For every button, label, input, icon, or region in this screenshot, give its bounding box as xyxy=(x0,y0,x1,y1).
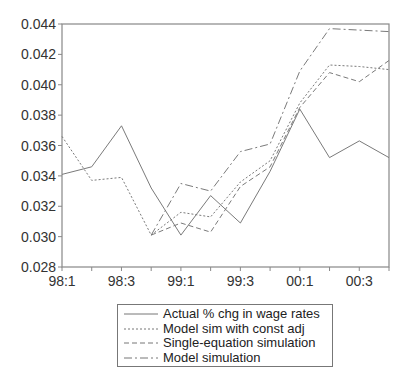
x-tick-label: 98:1 xyxy=(48,273,75,289)
y-axis-ticks: 0.0280.0300.0320.0340.0360.0380.0400.042… xyxy=(21,16,62,275)
x-tick-label: 00:3 xyxy=(346,273,373,289)
x-tick-label: 99:1 xyxy=(167,273,194,289)
dashdot-line-swatch-icon xyxy=(124,353,158,363)
series-line xyxy=(151,61,389,236)
x-tick-label: 99:3 xyxy=(227,273,254,289)
y-tick-label: 0.040 xyxy=(21,77,56,93)
solid-line-swatch-icon xyxy=(124,309,158,319)
dashed-line-swatch-icon xyxy=(124,338,158,348)
y-tick-label: 0.042 xyxy=(21,46,56,62)
series-line xyxy=(151,29,389,236)
legend-item-actual: Actual % chg in wage rates xyxy=(124,307,326,322)
series-lines xyxy=(62,29,389,236)
line-chart: 0.0280.0300.0320.0340.0360.0380.0400.042… xyxy=(0,0,403,300)
y-tick-label: 0.038 xyxy=(21,107,56,123)
y-tick-label: 0.036 xyxy=(21,138,56,154)
legend-item-single-equation: Single-equation simulation xyxy=(124,336,326,351)
legend-item-model-sim-const-adj: Model sim with const adj xyxy=(124,322,326,337)
y-tick-label: 0.030 xyxy=(21,229,56,245)
legend-item-model-simulation: Model simulation xyxy=(124,351,326,366)
dotted-line-swatch-icon xyxy=(124,324,158,334)
legend-label: Actual % chg in wage rates xyxy=(163,307,320,321)
legend-label: Single-equation simulation xyxy=(163,336,315,350)
y-tick-label: 0.032 xyxy=(21,198,56,214)
x-axis-ticks: 98:198:399:199:300:100:3 xyxy=(48,267,389,289)
chart-legend: Actual % chg in wage rates Model sim wit… xyxy=(117,304,333,367)
legend-label: Model sim with const adj xyxy=(163,322,305,336)
x-tick-label: 00:1 xyxy=(286,273,313,289)
y-tick-label: 0.034 xyxy=(21,168,56,184)
chart-axes xyxy=(62,24,389,267)
x-tick-label: 98:3 xyxy=(108,273,135,289)
legend-label: Model simulation xyxy=(163,351,261,365)
y-tick-label: 0.044 xyxy=(21,16,56,32)
